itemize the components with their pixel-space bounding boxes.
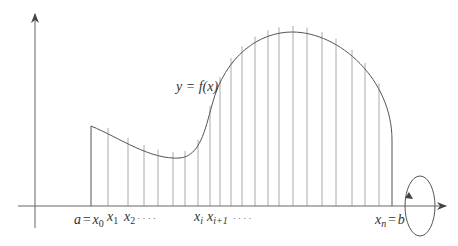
tick-label-xi1: xi+1· · · · <box>206 209 252 226</box>
tick-label-x2: x2· · · · <box>123 209 156 226</box>
svg-text:xi: xi <box>193 209 203 226</box>
partition-strips <box>108 26 379 206</box>
tick-label-x1: x1 <box>106 209 118 226</box>
svg-text:xi+1· · · ·: xi+1· · · · <box>206 209 252 226</box>
svg-text:xn=b: xn=b <box>374 212 405 229</box>
volume-of-revolution-diagram: y = f(x) a=x0 x1 x2· · · · xi xi+1· · · … <box>0 0 458 246</box>
tick-label-a-x0: a=x0 <box>74 212 104 229</box>
tick-label-xn-b: xn=b <box>374 212 405 229</box>
svg-text:x1: x1 <box>106 209 118 226</box>
tick-label-xi: xi <box>193 209 203 226</box>
svg-text:a=x0: a=x0 <box>74 212 104 229</box>
curve-label: y = f(x) <box>174 79 218 95</box>
svg-text:x2· · · ·: x2· · · · <box>123 209 156 226</box>
